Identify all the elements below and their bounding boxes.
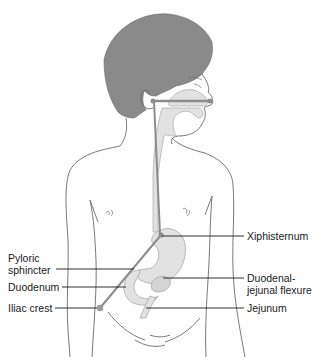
label-pyloric-line2: sphincter [8, 264, 51, 276]
nose-landmark-dot [208, 99, 213, 104]
iliac-crest-landmark-dot [97, 305, 103, 311]
label-duodenum: Duodenum [8, 281, 59, 293]
xiphisternum-landmark-dot [159, 233, 164, 238]
label-pyloric-line1: Pyloric [8, 252, 40, 264]
airway [153, 90, 208, 232]
label-xiphisternum: Xiphisternum [247, 230, 308, 242]
anatomy-diagram: Xiphisternum Pyloric sphincter Duodenum … [0, 0, 318, 357]
label-dj-flexure-line2: jejunal flexure [247, 284, 312, 296]
label-jejunum: Jejunum [247, 302, 287, 314]
ear-landmark-dot [151, 99, 156, 104]
label-dj-flexure-line1: Duodenal- [247, 272, 295, 284]
label-iliac-crest: Iliac crest [8, 302, 52, 314]
